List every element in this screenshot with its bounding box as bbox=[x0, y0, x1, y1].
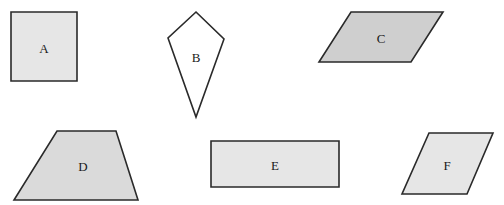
shapes-diagram: A B C D E F bbox=[0, 0, 504, 205]
label-e: E bbox=[271, 158, 279, 173]
trapezoid-d bbox=[14, 131, 138, 200]
label-d: D bbox=[78, 159, 87, 174]
label-c: C bbox=[377, 31, 386, 46]
shape-c: C bbox=[319, 12, 443, 62]
shape-d: D bbox=[14, 131, 138, 200]
label-b: B bbox=[192, 50, 201, 65]
kite-b bbox=[168, 12, 224, 117]
shape-a: A bbox=[11, 12, 77, 81]
label-a: A bbox=[39, 41, 49, 56]
label-f: F bbox=[443, 158, 450, 173]
shape-b: B bbox=[168, 12, 224, 117]
shape-f: F bbox=[402, 133, 493, 194]
shape-e: E bbox=[211, 141, 339, 187]
